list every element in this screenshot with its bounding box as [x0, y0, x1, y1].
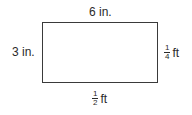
denominator: 2 [92, 99, 98, 107]
left-side-label: 3 in. [12, 46, 35, 58]
bottom-side-label: 1 2 ft [92, 90, 107, 107]
fraction: 1 2 [92, 90, 98, 107]
rectangle [42, 22, 158, 83]
right-side-label: 1 4 ft [164, 44, 179, 61]
denominator: 4 [164, 53, 170, 61]
top-side-label: 6 in. [89, 6, 112, 18]
unit: ft [100, 92, 107, 106]
unit: ft [172, 46, 179, 60]
fraction: 1 4 [164, 44, 170, 61]
